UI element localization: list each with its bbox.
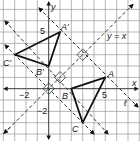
grid [0,0,140,141]
label-c-prime: C′ [3,58,11,68]
label-y-equals-x: y = x [106,31,127,41]
label-a: A [107,69,114,79]
tick-label-x5: 5 [102,90,107,100]
label-b-prime: B′ [36,67,44,77]
tick-label-y-neg2: −2 [37,106,47,116]
label-b: B [62,91,68,101]
line-y-equals-x-tail [4,127,10,133]
perpendicular-line-l [39,8,138,107]
tick-label-y5: 5 [40,26,45,36]
label-c: C [72,124,79,134]
label-x-axis: x [131,78,137,88]
label-a-prime: A′ [60,22,69,32]
label-y-axis: y [50,2,56,12]
label-ell: ℓ [123,98,127,108]
tick-label-x-neg2: −2 [19,90,29,100]
coordinate-plane-figure: A′ B′ C′ A B C y = x ℓ x y 5 −2 5 −2 [0,0,140,141]
